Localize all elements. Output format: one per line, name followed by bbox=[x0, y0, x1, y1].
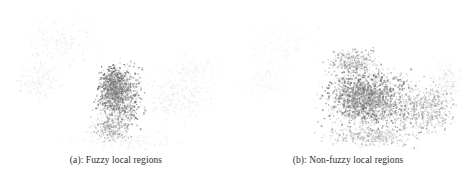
speckle-cluster-dense-lower-band bbox=[314, 123, 425, 149]
speckle-cluster-diffuse-left-mid-cloud bbox=[14, 54, 64, 104]
panel-fuzzy-local-regions bbox=[0, 0, 232, 150]
figure-root: (a): Fuzzy local regions (b): Non-fuzzy … bbox=[0, 0, 464, 177]
caption-panel-b: (b): Non-fuzzy local regions bbox=[232, 153, 464, 167]
speckle-cluster-very-faint-upper-left bbox=[241, 19, 319, 75]
speckle-scatter-a bbox=[0, 0, 232, 150]
speckle-cluster-dense-upper-arc bbox=[323, 47, 382, 77]
speckle-scatter-b bbox=[232, 0, 464, 150]
speckle-cluster-faint-right-band bbox=[134, 67, 214, 128]
speckle-cluster-faint-left-mid bbox=[236, 59, 287, 104]
caption-row: (a): Fuzzy local regions (b): Non-fuzzy … bbox=[0, 150, 464, 177]
caption-panel-a: (a): Fuzzy local regions bbox=[0, 153, 232, 167]
panel-non-fuzzy-local-regions bbox=[232, 0, 464, 150]
speckle-cluster-faint-right-upper bbox=[161, 52, 226, 90]
speckle-cluster-dense-central-blob bbox=[92, 58, 146, 133]
speckle-cluster-diffuse-upper-left-cloud bbox=[18, 8, 111, 73]
